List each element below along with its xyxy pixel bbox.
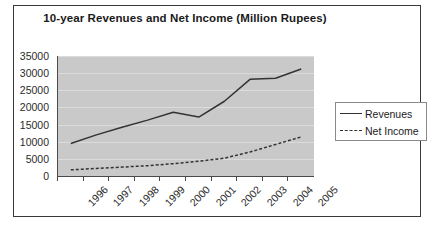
legend-item: Revenues: [340, 106, 426, 122]
y-axis-tick-label: 25000: [20, 85, 49, 95]
x-axis-tick-label: 1999: [162, 184, 186, 208]
y-axis: 05000100001500020000250003000035000: [8, 49, 54, 183]
plot-area: [57, 56, 314, 177]
x-axis-tick-label: 2004: [290, 184, 314, 208]
chart-figure: 10-year Revenues and Net Income (Million…: [0, 0, 435, 235]
x-axis-tick-mark: [185, 177, 186, 181]
x-axis-tick-mark: [236, 177, 237, 181]
y-axis-tick-label: 15000: [20, 120, 49, 130]
x-axis-tick-mark: [83, 177, 84, 181]
x-axis-tick-label: 1998: [137, 184, 161, 208]
x-axis-tick-mark: [108, 177, 109, 181]
y-axis-tick-label: 30000: [20, 68, 49, 78]
y-axis-tick-label: 10000: [20, 137, 49, 147]
x-axis-tick-mark: [287, 177, 288, 181]
legend-item-label: Net Income: [362, 125, 419, 137]
y-axis-tick-label: 35000: [20, 51, 49, 61]
x-axis-tick-mark: [159, 177, 160, 181]
chart-legend: RevenuesNet Income: [335, 102, 427, 141]
x-axis-tick-label: 2000: [188, 184, 212, 208]
legend-item-label: Revenues: [362, 108, 412, 120]
x-axis: 1996199719981999200020012002200320042005: [57, 177, 313, 222]
series-line-revenues: [71, 69, 301, 143]
x-axis-tick-mark: [134, 177, 135, 181]
x-axis-tick-label: 1997: [111, 184, 135, 208]
x-axis-tick-mark: [211, 177, 212, 181]
x-axis-tick-mark: [57, 177, 58, 181]
series-lines: [58, 56, 314, 176]
chart-title: 10-year Revenues and Net Income (Million…: [0, 12, 370, 24]
y-axis-tick-label: 5000: [26, 154, 49, 164]
dashed-line-icon: [340, 126, 362, 136]
x-axis-tick-label: 2003: [265, 184, 289, 208]
legend-item: Net Income: [340, 123, 426, 139]
y-axis-tick-label: 20000: [20, 102, 49, 112]
x-axis-tick-mark: [262, 177, 263, 181]
solid-line-icon: [340, 109, 362, 119]
x-axis-tick-label: 1996: [86, 184, 110, 208]
x-axis-tick-label: 2001: [214, 184, 238, 208]
x-axis-tick-label: 2002: [239, 184, 263, 208]
y-axis-tick-label: 0: [43, 171, 49, 181]
series-line-net-income: [71, 137, 301, 170]
